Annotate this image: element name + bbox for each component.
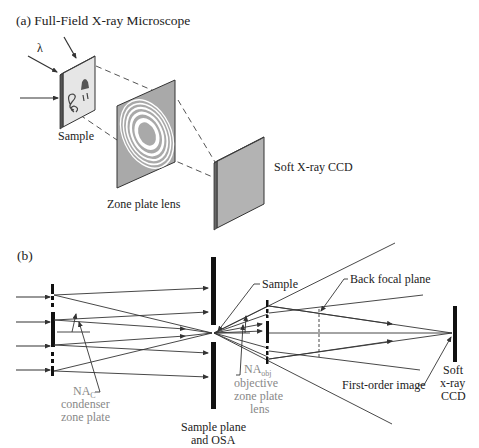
- wavelength-label: λ: [37, 41, 43, 55]
- xray-microscope-diagram: (a) Full-Field X-ray Microscope λ Sample: [0, 0, 479, 448]
- objective-zone-plate: [266, 300, 269, 364]
- panel-a-title: (a) Full-Field X-ray Microscope: [16, 13, 190, 28]
- sample-slab: [60, 56, 95, 129]
- ccd-detector: [453, 306, 457, 362]
- incident-ray-arrow: [28, 56, 57, 72]
- na-obj-pointer: [236, 325, 243, 375]
- sample-label: Sample: [58, 129, 94, 143]
- zone-plate-lens: [110, 80, 184, 188]
- condenser-zone-plate: [51, 284, 55, 376]
- osa-lower: [211, 342, 216, 409]
- ccd-label-1: Soft: [443, 363, 464, 377]
- condenser-label-1: condenser: [61, 397, 110, 411]
- ccd-label-2: x-ray: [440, 376, 465, 390]
- zone-plate-label: Zone plate lens: [107, 197, 181, 211]
- back-focal-plane-label: Back focal plane: [350, 272, 431, 286]
- incident-ray-arrow: [64, 37, 76, 58]
- panel-b-title: (b): [17, 248, 33, 263]
- first-order-image-label: First-order image: [342, 378, 426, 392]
- objective-label-1: objective: [234, 376, 278, 390]
- condenser-label-2: zone plate: [61, 410, 110, 424]
- objective-label-2: zone plate: [234, 389, 283, 403]
- sample-plane-label-1: Sample plane: [181, 420, 246, 434]
- ccd-label: Soft X-ray CCD: [274, 160, 353, 174]
- panel-b: (b): [16, 243, 466, 447]
- input-rays: [16, 297, 50, 370]
- objective-label-3: lens: [250, 402, 270, 416]
- image-rays: [269, 295, 452, 370]
- osa-upper: [211, 257, 216, 325]
- sample-label-b: Sample: [262, 277, 298, 291]
- na-c-pointer: [79, 322, 100, 392]
- sample-plane-label-2: and OSA: [191, 433, 236, 447]
- ccd-label-3: CCD: [441, 389, 466, 403]
- ccd-slab: [214, 137, 264, 230]
- panel-a: (a) Full-Field X-ray Microscope λ Sample: [16, 13, 353, 230]
- condenser-rays: [54, 288, 212, 377]
